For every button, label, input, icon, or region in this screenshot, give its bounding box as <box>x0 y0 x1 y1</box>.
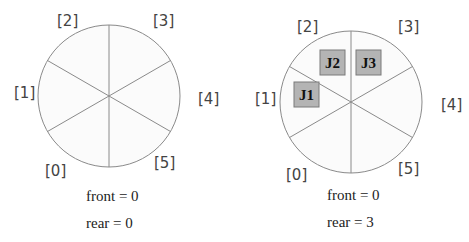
index-label-1: [1] <box>14 84 35 102</box>
job-box-j1: J1 <box>294 82 319 107</box>
index-label-2: [2] <box>297 18 318 36</box>
index-label-5: [5] <box>398 160 419 178</box>
job-box-j2: J2 <box>320 50 345 75</box>
rear-value: rear = 3 <box>327 214 374 230</box>
job-box-j3: J3 <box>356 50 381 75</box>
index-label-0: [0] <box>286 166 307 184</box>
job-label-j3: J3 <box>361 55 376 71</box>
queue-diagram-with-jobs: J1 J2 J3 [2] [3] [1] [4] [0] [5] front =… <box>255 18 462 230</box>
job-label-j2: J2 <box>325 55 340 71</box>
front-value: front = 0 <box>86 188 139 204</box>
index-label-4: [4] <box>198 90 219 108</box>
index-label-2: [2] <box>57 12 78 30</box>
job-label-j1: J1 <box>299 87 314 103</box>
queue-diagram-empty: [2] [3] [1] [4] [0] [5] front = 0 rear =… <box>14 12 219 231</box>
front-value: front = 0 <box>327 187 380 203</box>
index-label-5: [5] <box>154 154 175 172</box>
index-label-1: [1] <box>255 90 276 108</box>
index-label-3: [3] <box>153 12 174 30</box>
circular-queue-figure: [2] [3] [1] [4] [0] [5] front = 0 rear =… <box>0 0 469 242</box>
rear-value: rear = 0 <box>86 215 133 231</box>
index-label-3: [3] <box>398 18 419 36</box>
index-label-0: [0] <box>45 162 66 180</box>
index-label-4: [4] <box>441 96 462 114</box>
